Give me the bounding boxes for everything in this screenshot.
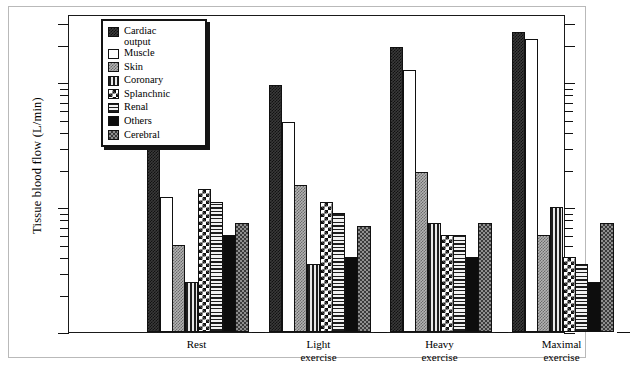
legend-item-cerebral: Cerebral	[108, 129, 201, 143]
legend-label: Splanchnic	[124, 88, 170, 99]
y-tick-right	[564, 333, 575, 334]
bar-muscle	[282, 122, 295, 332]
y-tick	[60, 121, 69, 122]
bar-others	[466, 257, 479, 332]
bar-coronary	[428, 223, 441, 332]
bar-cerebral	[357, 226, 370, 332]
y-tick	[60, 133, 69, 134]
bar-cardiac-output	[390, 47, 403, 332]
y-tick	[60, 149, 69, 150]
legend-item-splanchnic: Splanchnic	[108, 88, 201, 102]
legend-swatch-renal	[108, 103, 119, 113]
bar-muscle	[160, 197, 173, 332]
legend-swatch-muscle	[108, 49, 119, 59]
bar-coronary	[185, 282, 198, 332]
bar-skin	[294, 185, 307, 332]
group-separator	[495, 332, 508, 333]
chart-legend: Cardiac outputMuscleSkinCoronarySplanchn…	[101, 19, 207, 147]
bar-muscle	[525, 39, 538, 332]
legend-swatch-others	[108, 116, 119, 126]
y-tick	[60, 171, 69, 172]
bar-skin	[415, 172, 428, 332]
legend-label: Skin	[124, 61, 143, 72]
y-tick	[60, 228, 69, 229]
y-tick	[60, 220, 69, 221]
y-axis-title: Tissue blood flow (L/min)	[30, 41, 45, 291]
bar-renal	[210, 202, 223, 332]
bar-cerebral	[600, 223, 613, 332]
y-tick	[60, 246, 69, 247]
bar-cerebral	[478, 223, 491, 332]
legend-swatch-coronary	[108, 76, 119, 86]
bar-coronary	[550, 207, 563, 332]
bar-skin	[537, 235, 550, 332]
bar-group	[390, 14, 491, 332]
y-tick	[60, 296, 69, 297]
y-tick	[60, 236, 69, 237]
legend-label: Others	[124, 115, 152, 126]
y-tick	[60, 214, 69, 215]
legend-item-coronary: Coronary	[108, 74, 201, 88]
y-tick	[58, 333, 69, 334]
x-axis-label-rest: Rest	[126, 338, 267, 351]
bar-others	[345, 257, 358, 332]
legend-item-cardiac-output: Cardiac output	[108, 25, 201, 47]
y-tick	[60, 258, 69, 259]
group-separator	[374, 332, 387, 333]
y-tick	[60, 103, 69, 104]
bar-muscle	[403, 70, 416, 332]
group-separator	[252, 332, 265, 333]
x-axis-label-heavy: Heavy exercise	[369, 338, 510, 363]
bar-splanchnic	[563, 257, 576, 332]
legend-item-skin: Skin	[108, 61, 201, 75]
legend-label: Cardiac output	[124, 25, 156, 47]
bar-group	[512, 14, 613, 332]
legend-swatch-skin	[108, 62, 119, 72]
bar-renal	[453, 235, 466, 332]
legend-label: Muscle	[124, 47, 155, 58]
bar-cardiac-output	[269, 85, 282, 332]
x-axis-label-light: Light exercise	[248, 338, 389, 363]
legend-label: Renal	[124, 101, 148, 112]
y-tick	[58, 208, 69, 209]
bar-others	[588, 282, 601, 332]
bar-splanchnic	[198, 189, 211, 332]
y-tick	[58, 24, 69, 25]
legend-item-muscle: Muscle	[108, 47, 201, 61]
legend-label: Cerebral	[124, 129, 160, 140]
y-tick	[58, 46, 69, 47]
legend-label: Coronary	[124, 74, 163, 85]
bar-group	[269, 14, 370, 332]
y-tick	[60, 274, 69, 275]
x-axis-label-maximal: Maximal exercise	[491, 338, 632, 363]
y-tick	[60, 95, 69, 96]
legend-item-others: Others	[108, 115, 201, 129]
legend-item-renal: Renal	[108, 101, 201, 115]
bar-others	[223, 235, 236, 332]
bar-skin	[172, 245, 185, 332]
bar-renal	[575, 264, 588, 332]
bar-cerebral	[235, 223, 248, 332]
y-tick	[60, 89, 69, 90]
legend-swatch-splanchnic	[108, 89, 119, 99]
legend-swatch-cardiac-output	[108, 27, 119, 37]
legend-swatch-cerebral	[108, 130, 119, 140]
bar-coronary	[307, 264, 320, 332]
group-separator	[617, 332, 630, 333]
y-tick	[58, 83, 69, 84]
y-tick	[60, 111, 69, 112]
bar-splanchnic	[441, 235, 454, 332]
bar-splanchnic	[320, 202, 333, 332]
bar-cardiac-output	[512, 32, 525, 332]
bar-renal	[332, 213, 345, 332]
